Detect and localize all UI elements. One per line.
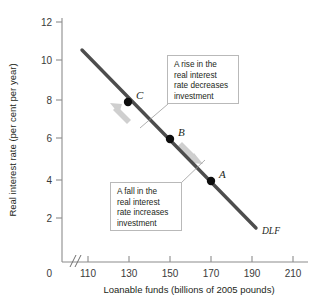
y-tick-label-12: 12 (41, 17, 53, 28)
x-tick-label-110: 110 (80, 268, 96, 279)
callout-rise-line4: investment (174, 92, 233, 103)
x-axis-title: Loanable funds (billions of 2005 pounds) (103, 284, 274, 295)
data-point-c (124, 98, 132, 106)
callout-fall-line4: investment (117, 219, 176, 230)
loanable-funds-demand-chart: 12 10 8 6 4 2 0 110 130 150 170 190 210 … (0, 0, 320, 302)
dlf-curve-label: DLF (261, 226, 280, 236)
callout-fall-line1: A fall in the (117, 187, 176, 198)
x-axis-break-icon (70, 255, 81, 267)
y-tick-label-2: 2 (46, 213, 52, 224)
y-axis-ticks (56, 22, 62, 218)
callout-rise-line1: A rise in the (174, 60, 233, 71)
y-tick-label-10: 10 (41, 55, 53, 66)
x-tick-label-190: 190 (244, 268, 261, 279)
x-axis-ticks (88, 256, 293, 262)
chart-svg: 12 10 8 6 4 2 0 110 130 150 170 190 210 … (0, 0, 320, 302)
x-tick-label-170: 170 (203, 268, 220, 279)
x-tick-label-150: 150 (162, 268, 179, 279)
callout-fall-line2: real interest (117, 198, 176, 209)
origin-label: 0 (46, 268, 52, 279)
callout-fall-line3: rate increases (117, 208, 176, 219)
data-point-c-label: C (136, 89, 144, 101)
callout-fall: A fall in the real interest rate increas… (110, 182, 182, 231)
data-point-a (207, 177, 215, 185)
x-tick-label-210: 210 (285, 268, 302, 279)
callout-rise-line3: rate decreases (174, 81, 233, 92)
x-tick-label-130: 130 (121, 268, 138, 279)
callout-rise: A rise in the real interest rate decreas… (167, 55, 239, 104)
data-point-b (166, 135, 174, 143)
y-tick-label-8: 8 (46, 95, 52, 106)
data-point-b-label: B (178, 126, 185, 138)
callout-rise-line2: real interest (174, 71, 233, 82)
y-tick-label-4: 4 (46, 175, 52, 186)
y-axis-title: Real interest rate (per cent per year) (7, 63, 18, 216)
data-point-a-label: A (218, 168, 226, 180)
y-tick-label-6: 6 (46, 133, 52, 144)
